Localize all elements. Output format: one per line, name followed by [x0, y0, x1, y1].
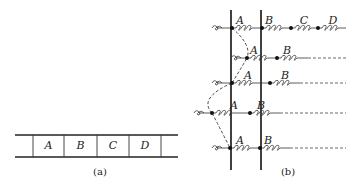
cell-label-a: A [44, 139, 53, 152]
origin-dot-icon [258, 146, 262, 150]
cell-label-b: B [75, 139, 84, 152]
origin-dot-icon [260, 26, 264, 30]
replication-row-3: AB [212, 69, 346, 85]
origin-dot-icon [316, 26, 320, 30]
origin-dot-icon [268, 81, 272, 85]
segment-label-a: A [249, 44, 258, 57]
loop-dashed-arc [208, 83, 232, 113]
replication-row-4: AB [194, 99, 346, 115]
replication-row-5: AB [212, 134, 346, 150]
figure-b-caption: (b) [281, 166, 295, 177]
figure-a-caption: (a) [93, 166, 107, 177]
cell-label-d: D [140, 139, 150, 152]
segment-label-b: B [264, 14, 273, 27]
origin-dot-icon [289, 26, 293, 30]
segment-label-b: B [282, 44, 291, 57]
segment-label-a: A [235, 134, 244, 147]
segment-label-d: D [328, 14, 338, 27]
replication-row-2: AB [231, 44, 346, 60]
segment-label-a: A [229, 99, 238, 112]
cell-label-c: C [109, 139, 118, 152]
origin-dot-icon [228, 146, 232, 150]
segment-label-b: B [263, 134, 272, 147]
figure-b-replication: ABCDABABABAB [194, 10, 346, 170]
origin-dot-icon [210, 111, 214, 115]
segment-label-a: A [235, 14, 244, 27]
origin-dot-icon [275, 56, 279, 60]
loop-dashed-arc [232, 28, 248, 58]
figure-a-strip: ABCD [15, 135, 178, 157]
segment-label-c: C [300, 14, 309, 27]
diagram-canvas: ABCD ABCDABABABAB (a) (b) [0, 0, 354, 186]
origin-dot-icon [230, 26, 234, 30]
segment-label-b: B [256, 99, 265, 112]
origin-dot-icon [245, 56, 249, 60]
segment-label-a: A [243, 69, 252, 82]
loop-dashed-arc [212, 113, 230, 148]
origin-dot-icon [230, 81, 234, 85]
origin-dot-icon [248, 111, 252, 115]
segment-label-b: B [280, 69, 289, 82]
replication-row-1: ABCD [212, 14, 346, 30]
